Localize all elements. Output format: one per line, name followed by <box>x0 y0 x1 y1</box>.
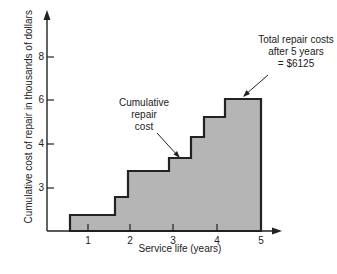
x-tick-label-1: 1 <box>81 235 95 246</box>
annotation-line: = $6125 <box>248 58 337 70</box>
annotation-total-repair-costs: Total repair costs after 5 years = $6125 <box>248 34 337 70</box>
annotation-arrow-cumulative <box>157 133 178 156</box>
x-axis-title: Service life (years) <box>120 243 240 254</box>
annotation-line: cost <box>114 121 174 133</box>
annotation-arrow-total <box>245 75 268 95</box>
annotation-line: after 5 years <box>248 46 337 58</box>
x-axis-arrow-icon <box>272 228 282 235</box>
annotation-cumulative-repair-cost: Cumulative repair cost <box>114 97 174 133</box>
y-ticks <box>47 57 54 188</box>
y-axis-title: Cumulative cost of repair in thousands o… <box>23 24 34 224</box>
annotation-line: Cumulative <box>114 97 174 109</box>
y-axis-arrow-icon <box>44 10 51 20</box>
annotation-line: Total repair costs <box>248 34 337 46</box>
x-tick-label-5: 5 <box>254 235 268 246</box>
annotation-line: repair <box>114 109 174 121</box>
step-chart: 8 6 4 3 1 2 3 4 5 Service life (years) C… <box>0 0 337 274</box>
